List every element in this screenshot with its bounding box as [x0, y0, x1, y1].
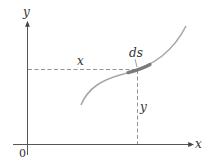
- y-axis-label: y: [22, 5, 30, 19]
- y-distance-label: y: [139, 100, 147, 114]
- x-distance-label: x: [77, 54, 84, 68]
- arc-length-diagram: y x 0 x y ds: [0, 0, 207, 166]
- origin-label: 0: [19, 147, 26, 160]
- ds-leader-line: [135, 59, 137, 67]
- ds-arc-element: [128, 65, 150, 73]
- x-axis-label: x: [195, 137, 202, 151]
- ds-label: ds: [129, 46, 143, 60]
- curve: [81, 26, 186, 105]
